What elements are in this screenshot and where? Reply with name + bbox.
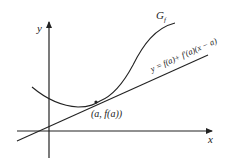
curve-label-sub: f <box>164 16 167 24</box>
tangency-point <box>94 100 97 103</box>
tangent-line <box>17 55 208 141</box>
x-axis-label: x <box>207 133 213 145</box>
y-axis-label: y <box>36 22 42 34</box>
tangent-line-diagram: x y (a, f(a)) Gf y = f(a)+ f′(a)(x − a) <box>0 0 236 167</box>
tangency-point-label: (a, f(a)) <box>91 108 123 120</box>
curve-label-main: G <box>156 9 164 21</box>
curve-label: Gf <box>156 9 167 24</box>
